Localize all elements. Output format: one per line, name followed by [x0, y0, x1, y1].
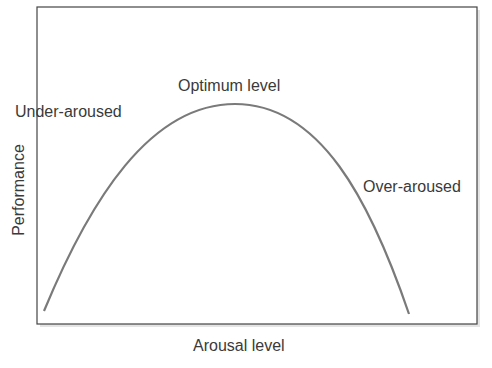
- annotation-under-aroused: Under-aroused: [15, 103, 122, 121]
- plot-frame: [37, 7, 477, 324]
- annotation-optimum-level: Optimum level: [178, 77, 280, 95]
- y-axis-label: Performance: [10, 144, 28, 236]
- x-axis-label: Arousal level: [193, 337, 285, 355]
- annotation-over-aroused: Over-aroused: [363, 178, 461, 196]
